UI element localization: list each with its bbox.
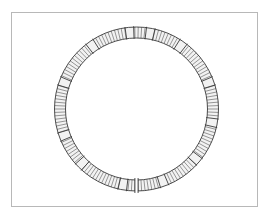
ring-drawing: [55, 26, 219, 193]
segmented-ring-illustration: [0, 0, 273, 218]
